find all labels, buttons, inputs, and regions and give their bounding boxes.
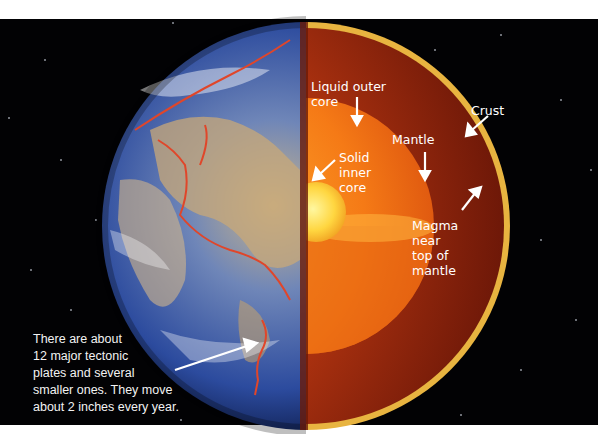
caption-line: about 2 inches every year. (33, 399, 179, 416)
label-liquid-outer-core: Liquid outer core (311, 79, 386, 109)
label-magma: Magma near top of mantle (412, 218, 458, 278)
label-line: core (339, 180, 371, 195)
label-crust: Crust (471, 103, 504, 118)
caption-line: smaller ones. They move (33, 382, 179, 399)
label-line: near (412, 233, 458, 248)
label-line: Solid (339, 150, 371, 165)
label-line: mantle (412, 263, 458, 278)
label-mantle: Mantle (392, 132, 434, 147)
label-line: inner (339, 165, 371, 180)
caption-line: 12 major tectonic (33, 348, 179, 365)
label-line: Liquid outer (311, 79, 386, 94)
label-line: core (311, 94, 386, 109)
caption-line: There are about (33, 331, 179, 348)
caption-line: plates and several (33, 365, 179, 382)
label-line: top of (412, 248, 458, 263)
label-solid-inner-core: Solid inner core (339, 150, 371, 195)
tectonic-plates-caption: There are about 12 major tectonic plates… (33, 331, 179, 416)
label-line: Magma (412, 218, 458, 233)
